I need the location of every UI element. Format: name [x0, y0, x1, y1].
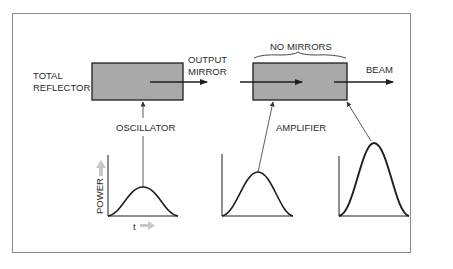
- no-mirrors-label: NO MIRRORS: [270, 41, 332, 52]
- pulse-graph-amplifier-input: [222, 154, 293, 216]
- power-up-arrow-icon: [96, 160, 106, 176]
- time-axis-label: t: [133, 221, 136, 232]
- pulse-graph-amplified-output: [339, 143, 409, 216]
- diagram-frame: [13, 14, 411, 253]
- amplifier-output-connector: [347, 102, 371, 141]
- amplifier-input-connector: [258, 102, 273, 172]
- beam-label: BEAM: [366, 64, 393, 75]
- output-mirror-label-2: MIRROR: [188, 66, 227, 77]
- no-mirrors-brace: [254, 52, 346, 58]
- total-reflector-label: TOTAL: [33, 70, 63, 81]
- output-mirror-label: OUTPUT: [188, 54, 227, 65]
- laser-oscillator-amplifier-diagram: TOTAL REFLECTOR OUTPUT MIRROR NO MIRRORS…: [0, 0, 453, 269]
- oscillator-label: OSCILLATOR: [116, 122, 175, 133]
- pulse-graph-oscillator: POWER t: [94, 155, 178, 232]
- total-reflector-label-2: REFLECTOR: [33, 82, 91, 93]
- power-axis-label: POWER: [94, 178, 105, 214]
- time-right-arrow-icon: [140, 221, 155, 230]
- amplifier-label: AMPLIFIER: [276, 122, 326, 133]
